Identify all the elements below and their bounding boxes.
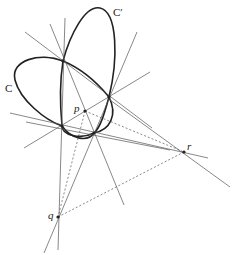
point-p3 xyxy=(60,124,63,127)
dash-q-r xyxy=(58,152,184,217)
line-p2-p4 xyxy=(44,32,137,253)
line-r-2 xyxy=(26,122,170,150)
point-p xyxy=(83,109,86,112)
diagram-canvas: C C′ p q r xyxy=(0,0,232,255)
point-q xyxy=(56,215,59,218)
line-p3-p4 xyxy=(10,113,208,158)
point-p2 xyxy=(107,95,110,98)
label-q: q xyxy=(48,209,54,221)
line-r-1 xyxy=(110,100,230,187)
point-p4 xyxy=(92,131,95,134)
label-p: p xyxy=(73,102,80,114)
line-p1-p2 xyxy=(25,32,152,128)
point-r xyxy=(182,150,185,153)
label-r: r xyxy=(187,140,192,152)
point-p1 xyxy=(61,59,64,62)
label-c-prime: C′ xyxy=(113,6,123,18)
line-p2-p3 xyxy=(24,72,150,148)
label-c: C xyxy=(5,82,12,94)
